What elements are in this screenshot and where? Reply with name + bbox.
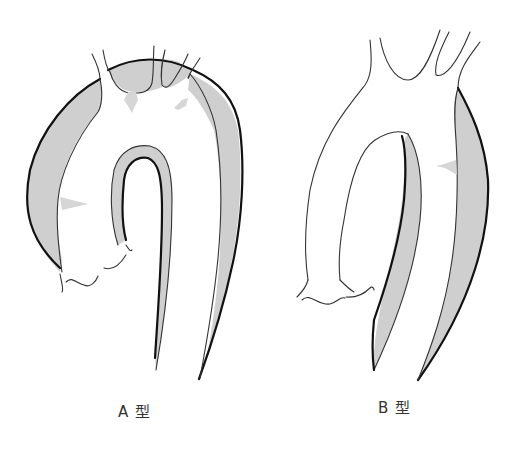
type-b-intimal-tear xyxy=(436,160,457,175)
type-b-diagram xyxy=(297,30,488,380)
type-a-intimal-tear-arch-right xyxy=(174,98,188,110)
type-a-label: A 型 xyxy=(118,400,151,421)
type-b-false-lumen-inner xyxy=(374,134,422,370)
type-a-intimal-tear-ascending xyxy=(60,197,88,210)
type-b-label: B 型 xyxy=(378,396,411,417)
aortic-dissection-figure: A 型 B 型 xyxy=(0,0,512,450)
type-b-ascending-wall xyxy=(306,40,372,280)
type-a-diagram xyxy=(27,46,242,379)
type-a-intimal-tear-arch xyxy=(124,92,138,113)
type-a-false-lumen-inner xyxy=(111,146,172,370)
